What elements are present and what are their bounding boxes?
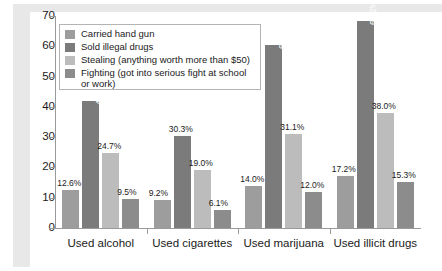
x-axis-category-label: Used alcohol (55, 238, 147, 250)
bar[interactable] (337, 176, 354, 228)
bar-value-label: 68.2% (369, 1, 378, 25)
bar[interactable] (305, 192, 322, 228)
bar[interactable] (82, 101, 99, 228)
bar[interactable] (245, 186, 262, 228)
bar-value-label: 9.5% (117, 188, 136, 197)
x-axis-category-label: Used cigarettes (147, 238, 239, 250)
legend-swatch-icon (65, 30, 75, 39)
bar[interactable] (62, 190, 79, 228)
bar-value-label: 31.1% (280, 123, 304, 132)
y-axis-tick-mark (49, 16, 55, 17)
bar[interactable] (357, 21, 374, 228)
y-axis-tick-mark (49, 46, 55, 47)
bar-value-label: 60.5% (278, 25, 287, 49)
bar-value-label: 14.0% (240, 175, 264, 184)
legend-item[interactable]: Stealing (anything worth more than $50) (65, 55, 255, 66)
bar-value-label: 30.3% (169, 125, 193, 134)
legend-swatch-icon (65, 69, 75, 78)
y-axis-tick-mark (49, 107, 55, 108)
bar-value-label: 12.0% (300, 181, 324, 190)
legend-item[interactable]: Carried hand gun (65, 29, 255, 40)
bar-value-label: 38.0% (372, 102, 396, 111)
y-axis-tick-mark (49, 137, 55, 138)
chart-legend: Carried hand gunSold illegal drugsSteali… (59, 24, 261, 90)
bar-value-label: 17.2% (332, 165, 356, 174)
legend-item-label: Fighting (got into serious fight at scho… (81, 68, 255, 89)
bar[interactable] (154, 200, 171, 228)
legend-item-label: Stealing (anything worth more than $50) (81, 55, 250, 66)
x-axis-group-separator (330, 229, 331, 234)
bar[interactable] (397, 182, 414, 228)
x-axis-category-label: Used marijuana (238, 238, 330, 250)
legend-item-label: Sold illegal drugs (81, 42, 153, 53)
bar[interactable] (265, 45, 282, 228)
bar-value-label: 9.2% (149, 189, 168, 198)
legend-swatch-icon (65, 43, 75, 52)
bar-value-label: 24.7% (97, 142, 121, 151)
bar[interactable] (174, 136, 191, 228)
bar-value-label: 15.3% (392, 171, 416, 180)
bar[interactable] (214, 210, 231, 228)
legend-swatch-icon (65, 56, 75, 65)
bar-value-label: 19.0% (189, 159, 213, 168)
y-axis-tick-mark (49, 198, 55, 199)
bar[interactable] (122, 199, 139, 228)
y-axis-tick-mark (49, 228, 55, 229)
legend-item[interactable]: Fighting (got into serious fight at scho… (65, 68, 255, 89)
x-axis-category-label: Used illicit drugs (330, 238, 422, 250)
y-axis-tick-mark (49, 167, 55, 168)
y-axis-tick-mark (49, 77, 55, 78)
x-axis-group-separator (147, 229, 148, 234)
legend-item[interactable]: Sold illegal drugs (65, 42, 255, 53)
legend-item-label: Carried hand gun (81, 29, 154, 40)
bar-value-label: 6.1% (209, 199, 228, 208)
x-axis-group-separator (238, 229, 239, 234)
bar-value-label: 12.6% (57, 179, 81, 188)
